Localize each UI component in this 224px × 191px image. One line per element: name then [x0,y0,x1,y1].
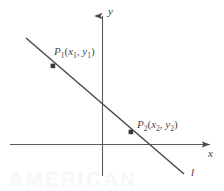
p2-paren-close: ) [174,118,178,130]
point-label-p2: P2(x2, y2) [137,119,178,130]
p1-y-subscript: 1 [87,51,91,60]
point-marker-p1 [51,64,56,69]
p1-subscript: 1 [61,51,65,60]
figure-canvas: AMERICAN [0,0,224,191]
p1-paren-close: ) [91,45,95,57]
line-l-label: l [191,167,194,178]
p2-letter: P [137,118,144,130]
svg-text:AMERICAN: AMERICAN [8,167,137,190]
y-axis-label: y [108,6,113,17]
p1-x-subscript: 1 [73,51,77,60]
p2-x-subscript: 2 [156,124,160,133]
scan-watermark: AMERICAN [8,167,137,190]
p2-y-subscript: 2 [170,124,174,133]
p2-subscript: 2 [144,124,148,133]
point-marker-p2 [129,130,134,135]
x-axis-label: x [208,148,213,159]
p1-letter: P [54,45,61,57]
line-l [26,38,184,174]
coordinate-plane-figure: AMERICAN P1(x1, y1) P2(x2, y2) y x l [0,0,224,191]
point-label-p1: P1(x1, y1) [54,46,95,57]
